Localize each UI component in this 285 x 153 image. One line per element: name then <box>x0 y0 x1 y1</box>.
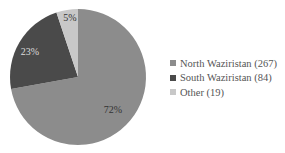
slice-label-north: 72% <box>104 104 122 115</box>
slice-label-other: 5% <box>63 12 76 23</box>
pie-chart: 72% 23% 5% <box>0 0 160 153</box>
legend-swatch-icon <box>170 60 176 66</box>
legend-label: North Waziristan (267) <box>180 58 277 69</box>
legend-item-south-waziristan: South Waziristan (84) <box>170 71 277 86</box>
legend-label: South Waziristan (84) <box>180 72 272 83</box>
legend: North Waziristan (267) South Waziristan … <box>170 56 277 100</box>
slice-label-south: 23% <box>21 46 39 57</box>
legend-swatch-icon <box>170 75 176 81</box>
legend-item-north-waziristan: North Waziristan (267) <box>170 56 277 71</box>
legend-label: Other (19) <box>180 87 224 98</box>
legend-swatch-icon <box>170 89 176 95</box>
legend-item-other: Other (19) <box>170 85 277 100</box>
